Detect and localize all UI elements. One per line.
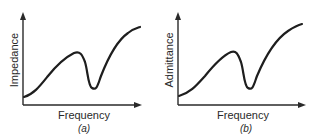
figure: Impedance Frequency (a) Admittance Frequ… xyxy=(0,0,311,140)
y-axis-arrow-icon xyxy=(175,12,181,20)
panel-caption: (a) xyxy=(78,123,90,134)
x-axis xyxy=(178,102,306,108)
y-axis xyxy=(175,12,181,105)
y-axis xyxy=(20,12,26,105)
panel-a: Impedance Frequency (a) xyxy=(8,12,142,134)
x-axis-label: Frequency xyxy=(217,109,269,121)
x-axis-label: Frequency xyxy=(58,109,110,121)
y-axis-label: Admittance xyxy=(163,32,175,87)
x-axis xyxy=(23,102,142,108)
x-axis-arrow-icon xyxy=(134,102,142,108)
panel-b: Admittance Frequency (b) xyxy=(163,12,306,134)
admittance-curve xyxy=(179,24,302,96)
y-axis-arrow-icon xyxy=(20,12,26,20)
y-axis-label: Impedance xyxy=(8,33,20,87)
impedance-curve xyxy=(24,27,140,97)
panel-caption: (b) xyxy=(240,123,252,134)
x-axis-arrow-icon xyxy=(298,102,306,108)
